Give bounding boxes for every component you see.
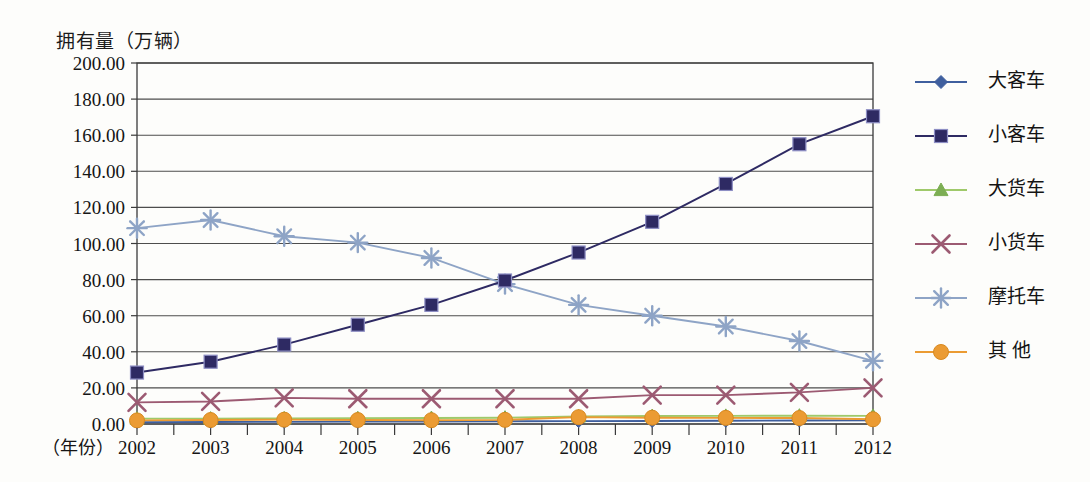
chart-canvas: 0.0020.0040.0060.0080.00100.00120.00140.…	[0, 0, 1090, 482]
marker-circle	[934, 345, 949, 360]
x-tick-label: 2003	[192, 437, 230, 458]
y-tick-label: 140.00	[73, 161, 125, 182]
marker-asterisk	[128, 219, 147, 238]
x-tick-label: 2007	[486, 437, 524, 458]
legend-label: 小客车	[988, 124, 1045, 145]
legend-item-小货车[interactable]: 小货车	[915, 232, 1045, 253]
marker-circle	[350, 413, 365, 428]
x-tick-label: 2004	[265, 437, 304, 458]
marker-asterisk	[716, 317, 735, 336]
y-tick-label: 60.00	[82, 306, 125, 327]
y-tick-label: 100.00	[73, 234, 125, 255]
marker-square	[793, 138, 806, 151]
y-tick-label: 120.00	[73, 197, 125, 218]
legend-item-大货车[interactable]: 大货车	[915, 178, 1045, 199]
marker-asterisk	[422, 248, 441, 267]
marker-asterisk	[864, 351, 883, 370]
marker-circle	[498, 412, 513, 427]
marker-square	[131, 366, 144, 379]
series-小客车	[131, 110, 880, 379]
marker-circle	[277, 412, 292, 427]
legend-item-其他[interactable]: 其 他	[915, 340, 1031, 361]
y-tick-label: 20.00	[82, 378, 125, 399]
marker-circle	[203, 413, 218, 428]
series-摩托车	[128, 211, 883, 371]
line-chart: 0.0020.0040.0060.0080.00100.00120.00140.…	[0, 0, 1090, 482]
y-tick-label: 80.00	[82, 270, 125, 291]
marker-asterisk	[643, 306, 662, 325]
marker-asterisk	[932, 289, 951, 308]
legend-item-摩托车[interactable]: 摩托车	[915, 286, 1045, 307]
marker-square	[204, 355, 217, 368]
marker-square	[935, 130, 948, 143]
series-小货车	[129, 379, 882, 410]
marker-square	[425, 298, 438, 311]
x-axis-title: （年份）	[42, 438, 114, 458]
marker-square	[719, 177, 732, 190]
x-tick-label: 2002	[118, 437, 156, 458]
marker-circle	[645, 410, 660, 425]
marker-square	[278, 338, 291, 351]
marker-asterisk	[201, 211, 220, 230]
legend-item-大客车[interactable]: 大客车	[915, 70, 1045, 91]
y-tick-label: 180.00	[73, 89, 125, 110]
marker-square	[867, 110, 880, 123]
x-tick-label: 2005	[339, 437, 377, 458]
chart-page: 拥有量（万辆） 0.0020.0040.0060.0080.00100.0012…	[0, 0, 1090, 482]
x-tick-label: 2008	[560, 437, 598, 458]
marker-circle	[424, 413, 439, 428]
marker-diamond	[935, 76, 948, 89]
marker-circle	[792, 411, 807, 426]
marker-circle	[866, 412, 881, 427]
y-tick-label: 200.00	[73, 53, 125, 74]
legend-label: 摩托车	[988, 286, 1045, 307]
marker-square	[499, 274, 512, 287]
marker-circle	[571, 410, 586, 425]
y-tick-label: 0.00	[92, 414, 125, 435]
marker-square	[646, 215, 659, 228]
y-tick-label: 160.00	[73, 125, 125, 146]
marker-square	[572, 246, 585, 259]
marker-asterisk	[275, 227, 294, 246]
marker-asterisk	[790, 331, 809, 350]
legend-label: 大客车	[988, 70, 1045, 91]
marker-circle	[130, 413, 145, 428]
x-axis-group: 2002200320042005200620072008200920102011…	[118, 424, 892, 458]
gridlines-group: 0.0020.0040.0060.0080.00100.00120.00140.…	[73, 53, 873, 435]
x-tick-label: 2006	[412, 437, 450, 458]
marker-asterisk	[569, 295, 588, 314]
marker-square	[351, 318, 364, 331]
legend-label: 大货车	[988, 178, 1045, 199]
x-tick-label: 2011	[781, 437, 818, 458]
y-tick-label: 40.00	[82, 342, 125, 363]
legend-label: 小货车	[988, 232, 1045, 253]
legend-label: 其 他	[988, 340, 1031, 361]
marker-circle	[718, 410, 733, 425]
x-tick-label: 2009	[633, 437, 671, 458]
legend-item-小客车[interactable]: 小客车	[915, 124, 1045, 145]
legend: 大客车小客车大货车小货车摩托车其 他	[915, 70, 1045, 361]
x-tick-label: 2010	[707, 437, 745, 458]
x-tick-label: 2012	[854, 437, 892, 458]
marker-asterisk	[348, 233, 367, 252]
